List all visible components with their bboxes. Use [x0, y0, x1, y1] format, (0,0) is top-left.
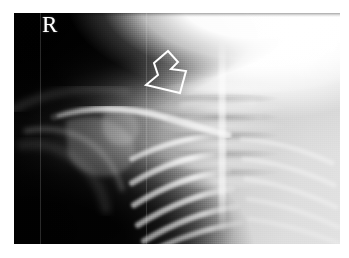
scan-seam-line-left [40, 13, 41, 244]
radiograph-image: R [14, 13, 340, 244]
scan-seam-line-mid [146, 13, 147, 244]
radiograph-viewer: R [0, 0, 349, 258]
laterality-marker: R [42, 13, 57, 36]
film-top-edge [14, 13, 340, 244]
pointer-arrow [138, 49, 190, 97]
arrow-outline-icon [146, 51, 186, 93]
